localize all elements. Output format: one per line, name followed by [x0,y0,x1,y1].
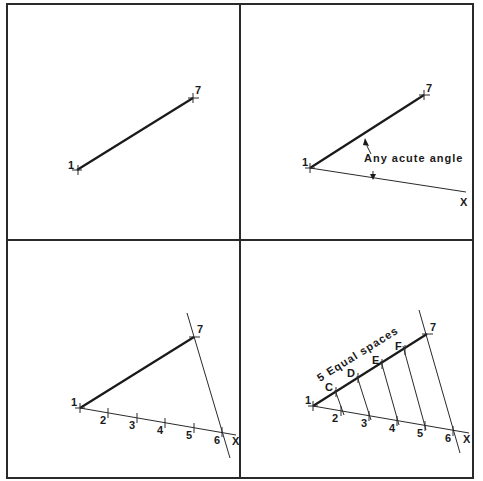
given-line [77,98,193,170]
panel-step-2: 1 7 X Any acute angle [302,82,468,208]
division-5-label: 5 [186,429,192,441]
point-7-label: 7 [197,323,203,335]
division-3-label: 3 [129,419,135,431]
parallel-7-6 [419,310,460,453]
line-7-6 [187,313,230,458]
point-1-label: 1 [305,394,311,406]
ray-x [310,168,466,192]
division-4-label: 4 [157,424,164,436]
acute-angle-note: Any acute angle [364,152,463,164]
panel-step-3: 1 7 2 3 4 5 6 X [71,313,240,458]
division-3-label: 3 [361,417,367,429]
ray-x-label: X [463,433,471,445]
given-line [80,337,194,408]
division-4-label: 4 [389,422,396,434]
point-D-label: D [347,367,355,379]
construction-diagram: 1 7 1 7 X Any acute angle [0,0,483,481]
division-5-label: 5 [417,427,423,439]
parallel-E-4 [381,361,399,425]
division-2-label: 2 [332,412,338,424]
point-1-label: 1 [302,156,308,168]
point-F-label: F [395,340,402,352]
point-C-label: C [325,381,333,393]
point-1-label: 1 [71,396,77,408]
parallel-F-5 [403,346,426,430]
division-6-label: 6 [214,434,220,446]
point-7-label: 7 [195,84,201,96]
point-7-label: 7 [426,82,432,94]
division-2-label: 2 [100,414,106,426]
ray-x-label: X [460,196,468,208]
point-7-label: 7 [430,321,436,333]
panel-step-4: 1 7 C D E F 2 3 4 5 6 X 5 Equal spaces [305,310,471,453]
ray-x-label: X [232,435,240,447]
point-E-label: E [372,354,379,366]
division-ticks [341,406,453,436]
division-6-label: 6 [445,432,451,444]
point-1-label: 1 [68,159,74,171]
arrowhead-upper [363,138,369,146]
division-ticks [108,408,222,437]
panel-step-1: 1 7 [68,84,201,175]
